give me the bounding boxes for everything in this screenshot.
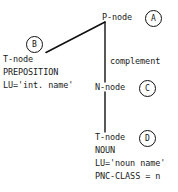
noun-category: NOUN [95,144,115,156]
preposition-category: PREPOSITION [3,66,58,78]
marker-d-letter: D [145,135,150,143]
preposition-lu: LU='int. name' [3,79,73,91]
node-label-n-node: N-node [95,82,125,93]
marker-c-letter: C [145,85,150,93]
node-label-p-node: P-node [102,12,132,23]
marker-a-letter: A [151,15,156,23]
marker-b-letter: B [32,41,37,49]
noun-lu: LU='noun name' [95,157,165,169]
marker-b: B [26,36,43,53]
edge-p-to-t-line [46,22,105,53]
diagram-canvas: P-node A B T-node PREPOSITION LU='int. n… [0,0,178,192]
noun-pnc-class: PNC-CLASS = n [95,170,160,182]
node-label-t-node-noun: T-node [95,132,125,143]
marker-d: D [139,130,156,147]
marker-a: A [145,10,162,27]
edge-label-complement: complement [110,56,160,67]
marker-c: C [139,80,156,97]
node-label-t-node-preposition: T-node [3,54,33,65]
